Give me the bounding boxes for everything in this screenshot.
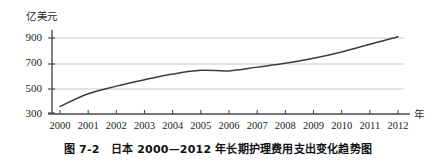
y-axis-tick-label: 700 xyxy=(14,56,42,68)
x-axis-tick-label: 2002 xyxy=(106,120,127,131)
x-axis-tick-label: 2001 xyxy=(78,120,99,131)
x-axis-tick-label: 2009 xyxy=(303,120,324,131)
x-axis-tick-label: 2010 xyxy=(331,120,352,131)
x-axis-tick-label: 2011 xyxy=(360,120,381,131)
data-series-line xyxy=(60,37,398,107)
x-axis-tick-label: 2006 xyxy=(219,120,240,131)
x-axis-tick-label: 2003 xyxy=(134,120,155,131)
x-axis-tick-label: 2004 xyxy=(162,120,183,131)
x-axis-tick-label: 2008 xyxy=(275,120,296,131)
x-axis-unit-label: 年 xyxy=(414,106,424,121)
x-axis-tick-label: 2012 xyxy=(388,120,409,131)
y-axis-tick-label: 300 xyxy=(14,107,42,119)
y-axis-tick-label: 500 xyxy=(14,82,42,94)
gridlines xyxy=(52,38,404,89)
figure-container: 亿美元 300500700900 20002001200220032004200… xyxy=(0,0,436,160)
y-axis-tick-label: 900 xyxy=(14,31,42,43)
chart-plot-area xyxy=(0,0,436,160)
x-axis-tick-label: 2000 xyxy=(50,120,71,131)
x-axis-tick-label: 2007 xyxy=(247,120,268,131)
axis-lines xyxy=(48,30,410,114)
figure-caption: 图 7-2 日本 2000—2012 年长期护理费用支出变化趋势图 xyxy=(0,140,436,156)
x-axis-tick-label: 2005 xyxy=(190,120,211,131)
